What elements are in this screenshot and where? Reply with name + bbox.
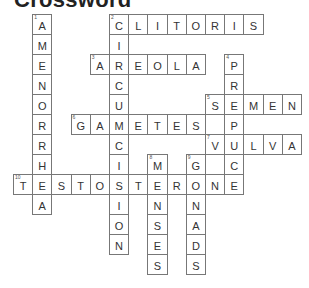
crossword-cell[interactable]: I xyxy=(109,154,129,175)
crossword-cell[interactable]: A xyxy=(90,114,110,135)
cell-letter: E xyxy=(154,180,161,192)
crossword-cell[interactable]: R xyxy=(224,74,244,95)
cell-letter: N xyxy=(192,200,200,212)
crossword-cell[interactable]: T xyxy=(71,174,91,195)
crossword-cell[interactable]: T xyxy=(167,14,187,35)
cell-letter: T xyxy=(154,120,161,132)
crossword-cell[interactable]: 6G xyxy=(71,114,91,135)
crossword-cell[interactable]: N xyxy=(109,234,129,255)
crossword-cell[interactable]: S xyxy=(186,254,206,275)
crossword-cell[interactable]: E xyxy=(32,174,52,195)
crossword-cell[interactable]: 9G xyxy=(186,154,206,175)
cell-letter: I xyxy=(118,40,121,52)
crossword-cell[interactable]: U xyxy=(224,134,244,155)
crossword-cell[interactable]: E xyxy=(147,234,167,255)
cell-letter: I xyxy=(156,20,159,32)
cell-letter: L xyxy=(174,60,180,72)
crossword-cell[interactable]: O xyxy=(32,94,52,115)
crossword-cell[interactable]: A xyxy=(186,214,206,235)
crossword-cell[interactable]: C xyxy=(109,74,129,95)
crossword-cell[interactable]: E xyxy=(263,94,283,115)
crossword-cell[interactable]: I xyxy=(109,194,129,215)
crossword-cell[interactable]: N xyxy=(32,74,52,95)
crossword-cell[interactable]: S xyxy=(51,174,71,195)
crossword-cell[interactable]: T xyxy=(128,174,148,195)
crossword-cell[interactable]: E xyxy=(128,114,148,135)
crossword-cell[interactable]: T xyxy=(147,114,167,135)
cell-letter: I xyxy=(233,20,236,32)
crossword-cell[interactable]: O xyxy=(186,14,206,35)
crossword-cell[interactable]: 2C xyxy=(109,14,129,35)
clue-number: 3 xyxy=(92,55,95,60)
crossword-cell[interactable]: S xyxy=(109,174,129,195)
crossword-cell[interactable]: L xyxy=(167,54,187,75)
cell-letter: N xyxy=(288,100,296,112)
crossword-cell[interactable]: L xyxy=(128,14,148,35)
crossword-cell[interactable]: U xyxy=(109,94,129,115)
crossword-cell[interactable]: R xyxy=(167,174,187,195)
cell-letter: E xyxy=(231,100,238,112)
cell-letter: P xyxy=(231,120,238,132)
crossword-cell[interactable]: R xyxy=(109,54,129,75)
crossword-cell[interactable]: I xyxy=(147,14,167,35)
crossword-cell[interactable]: M xyxy=(243,94,263,115)
cell-letter: S xyxy=(154,260,161,272)
crossword-cell[interactable]: O xyxy=(147,54,167,75)
crossword-cell[interactable]: E xyxy=(128,54,148,75)
crossword-cell[interactable]: P xyxy=(224,114,244,135)
cell-letter: A xyxy=(192,60,199,72)
crossword-cell[interactable]: 7V xyxy=(205,134,225,155)
crossword-cell[interactable]: 10T xyxy=(13,174,33,195)
crossword-cell[interactable]: E xyxy=(147,174,167,195)
cell-letter: I xyxy=(118,200,121,212)
crossword-cell[interactable]: E xyxy=(32,54,52,75)
crossword-cell[interactable]: 3A xyxy=(90,54,110,75)
crossword-cell[interactable]: S xyxy=(147,214,167,235)
crossword-cell[interactable]: L xyxy=(243,134,263,155)
crossword-cell[interactable]: O xyxy=(109,214,129,235)
crossword-cell[interactable]: N xyxy=(186,194,206,215)
cell-letter: M xyxy=(115,120,124,132)
clue-number: 1 xyxy=(34,15,37,20)
crossword-cell[interactable]: N xyxy=(205,174,225,195)
cell-letter: C xyxy=(230,160,238,172)
crossword-cell[interactable]: S xyxy=(147,254,167,275)
cell-letter: O xyxy=(153,60,162,72)
crossword-cell[interactable]: S xyxy=(186,114,206,135)
crossword-cell[interactable]: I xyxy=(224,14,244,35)
crossword-cell[interactable]: M xyxy=(109,114,129,135)
crossword-cell[interactable]: M xyxy=(32,34,52,55)
cell-letter: M xyxy=(153,160,162,172)
cell-letter: M xyxy=(249,100,258,112)
clue-number: 4 xyxy=(226,55,229,60)
crossword-cell[interactable]: S xyxy=(243,14,263,35)
crossword-cell[interactable]: O xyxy=(90,174,110,195)
crossword-cell[interactable]: 1A xyxy=(32,14,52,35)
crossword-cell[interactable]: 4P xyxy=(224,54,244,75)
crossword-cell[interactable]: I xyxy=(109,34,129,55)
crossword-cell[interactable]: A xyxy=(282,134,302,155)
cell-letter: N xyxy=(154,200,162,212)
cell-letter: A xyxy=(192,220,199,232)
crossword-cell[interactable]: N xyxy=(147,194,167,215)
crossword-cell[interactable]: R xyxy=(32,114,52,135)
crossword-cell[interactable]: D xyxy=(186,234,206,255)
cell-letter: H xyxy=(38,160,46,172)
crossword-cell[interactable]: V xyxy=(263,134,283,155)
crossword-cell[interactable]: 5S xyxy=(205,94,225,115)
cell-letter: S xyxy=(58,180,65,192)
crossword-cell[interactable]: A xyxy=(186,54,206,75)
crossword-cell[interactable]: C xyxy=(224,154,244,175)
crossword-cell[interactable]: O xyxy=(186,174,206,195)
crossword-cell[interactable]: E xyxy=(224,174,244,195)
cell-letter: E xyxy=(135,60,142,72)
crossword-cell[interactable]: H xyxy=(32,154,52,175)
crossword-cell[interactable]: E xyxy=(224,94,244,115)
crossword-cell[interactable]: R xyxy=(32,134,52,155)
crossword-cell[interactable]: N xyxy=(282,94,302,115)
crossword-cell[interactable]: 8M xyxy=(147,154,167,175)
crossword-cell[interactable]: E xyxy=(167,114,187,135)
crossword-cell[interactable]: A xyxy=(32,194,52,215)
crossword-cell[interactable]: R xyxy=(205,14,225,35)
crossword-cell[interactable]: C xyxy=(109,134,129,155)
